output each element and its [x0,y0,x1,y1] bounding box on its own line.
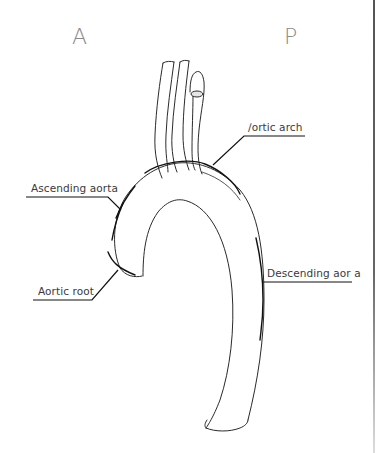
label-descending-aorta: Descending aor a [267,267,361,279]
root-bracket [108,252,135,275]
branch-vessels [155,60,204,178]
ascending-aorta-leader [26,197,121,210]
inner-wall [143,200,233,428]
aortic-arch-leader [213,136,305,165]
anterior-label: A [72,24,87,49]
label-ascending-aorta: Ascending aorta [31,182,118,194]
label-aortic-root: Aortic root [38,285,94,297]
label-aortic-arch: ∕ortic arch [248,121,302,133]
arch-bracket [145,161,240,194]
region-brackets [108,161,263,340]
aorta-outline [115,60,264,431]
aorta-diagram [0,0,376,453]
posterior-label: P [284,24,297,49]
